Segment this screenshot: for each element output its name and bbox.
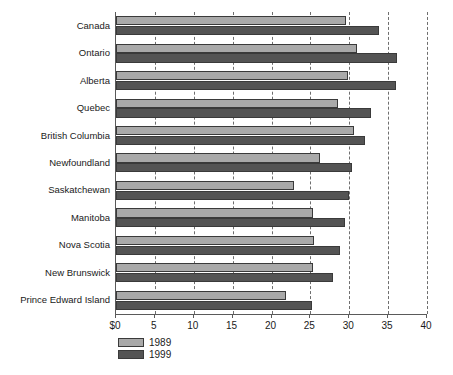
bar-1999: [116, 53, 397, 62]
bar-1999: [116, 163, 352, 172]
x-tick-label: 40: [420, 321, 431, 331]
bar-1989: [116, 263, 313, 272]
bar-1999: [116, 26, 379, 35]
bar-1989: [116, 126, 354, 135]
bar-1999: [116, 273, 333, 282]
bar-group: [116, 39, 427, 66]
bar-1999: [116, 81, 396, 90]
bar-group: [116, 12, 427, 39]
y-tick-label: Alberta: [80, 76, 110, 86]
x-tick-label: 30: [343, 321, 354, 331]
legend-item: 1999: [118, 349, 171, 360]
plot-area: [115, 12, 427, 314]
legend-item: 1989: [118, 337, 171, 348]
legend-swatch: [118, 338, 144, 347]
x-tick-label: 25: [304, 321, 315, 331]
bar-chart: CanadaOntarioAlbertaQuebecBritish Columb…: [0, 0, 453, 375]
gridline-40: [427, 12, 428, 314]
bar-1989: [116, 153, 320, 162]
y-tick-label: British Columbia: [41, 131, 110, 141]
bar-1989: [116, 44, 357, 53]
bar-1989: [116, 291, 286, 300]
y-tick-label: Canada: [77, 21, 110, 31]
x-tick-30: [348, 314, 349, 318]
y-tick-label: Prince Edward Island: [20, 295, 110, 305]
bar-1999: [116, 136, 365, 145]
y-tick-label: Nova Scotia: [59, 240, 110, 250]
x-tick-20: [271, 314, 272, 318]
bar-group: [116, 94, 427, 121]
y-tick-label: Saskatchewan: [48, 185, 110, 195]
bar-group: [116, 67, 427, 94]
x-tick-40: [426, 314, 427, 318]
x-tick-label: 35: [382, 321, 393, 331]
bar-group: [116, 232, 427, 259]
x-tick-label: 5: [151, 321, 157, 331]
x-tick-25: [309, 314, 310, 318]
legend-swatch: [118, 350, 144, 359]
bar-group: [116, 177, 427, 204]
bar-1989: [116, 236, 314, 245]
x-tick-35: [387, 314, 388, 318]
bar-group: [116, 149, 427, 176]
bar-group: [116, 204, 427, 231]
x-tick-5: [154, 314, 155, 318]
bar-group: [116, 122, 427, 149]
x-tick-label: $0: [109, 321, 120, 331]
chart-legend: 19891999: [118, 337, 171, 361]
bar-1999: [116, 218, 345, 227]
legend-label: 1989: [149, 338, 171, 348]
y-tick-label: Newfoundland: [49, 158, 110, 168]
x-tick-10: [193, 314, 194, 318]
x-tick-label: 10: [187, 321, 198, 331]
bar-1999: [116, 108, 371, 117]
y-tick-label: Quebec: [77, 103, 110, 113]
bar-1989: [116, 16, 346, 25]
y-tick-label: Manitoba: [71, 213, 110, 223]
bar-1999: [116, 301, 312, 310]
bar-1999: [116, 246, 340, 255]
bar-1989: [116, 181, 294, 190]
bar-1999: [116, 191, 349, 200]
x-tick-label: 15: [226, 321, 237, 331]
bar-group: [116, 259, 427, 286]
bar-1989: [116, 208, 313, 217]
x-tick-15: [232, 314, 233, 318]
bar-1989: [116, 71, 348, 80]
y-tick-label: Ontario: [79, 48, 110, 58]
bar-group: [116, 287, 427, 314]
x-tick-label: 20: [265, 321, 276, 331]
bar-1989: [116, 99, 338, 108]
x-tick-0: [115, 314, 116, 318]
legend-label: 1999: [149, 350, 171, 360]
y-tick-label: New Brunswick: [45, 268, 110, 278]
